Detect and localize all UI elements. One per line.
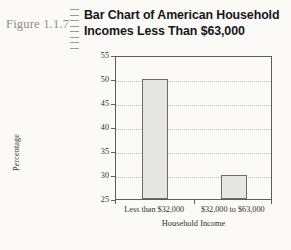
chart-title-line-1: Bar Chart of American Household xyxy=(84,8,284,24)
y-axis-tick-label: 25 xyxy=(90,196,109,204)
chart-title-line-2: Incomes Less Than $63,000 xyxy=(84,24,284,40)
y-axis-tick-labels: 25303540455055 xyxy=(90,52,109,200)
x-axis-tick-mark xyxy=(271,200,272,204)
x-axis-tick-labels: Less than $32,000$32,000 to $63,000 xyxy=(110,205,282,217)
x-axis-tick-label: Less than $32,000 xyxy=(124,205,184,215)
gridline xyxy=(116,177,271,178)
x-axis-tick-label: $32,000 to $63,000 xyxy=(201,205,265,215)
x-axis-tick-mark xyxy=(115,200,116,204)
y-axis-tick-label: 30 xyxy=(90,172,109,180)
y-axis-tick-label: 55 xyxy=(90,52,109,60)
y-axis-tick-label: 45 xyxy=(90,100,109,108)
gridline xyxy=(116,129,271,130)
figure-header: Figure 1.1.7 Bar Chart of American House… xyxy=(0,0,291,52)
dashed-vertical-rule-icon xyxy=(70,9,79,49)
x-axis-tick-marks xyxy=(115,200,272,204)
y-axis-tick-label: 40 xyxy=(90,124,109,132)
bar xyxy=(221,175,247,199)
y-axis-tick-label: 50 xyxy=(90,76,109,84)
figure-number-label: Figure 1.1.7 xyxy=(6,17,68,32)
gridline xyxy=(116,105,271,106)
y-axis-tick-label: 35 xyxy=(90,148,109,156)
chart-title: Bar Chart of American Household Incomes … xyxy=(84,8,284,39)
bar xyxy=(142,79,168,199)
bar-chart: Percentage 25303540455055 Less than $32,… xyxy=(0,52,291,250)
x-axis-tick-mark xyxy=(194,200,195,204)
x-axis-title: Household Income xyxy=(115,219,272,228)
plot-area xyxy=(115,56,272,200)
gridline xyxy=(116,81,271,82)
gridline xyxy=(116,153,271,154)
y-axis-title: Percentage xyxy=(12,113,21,193)
